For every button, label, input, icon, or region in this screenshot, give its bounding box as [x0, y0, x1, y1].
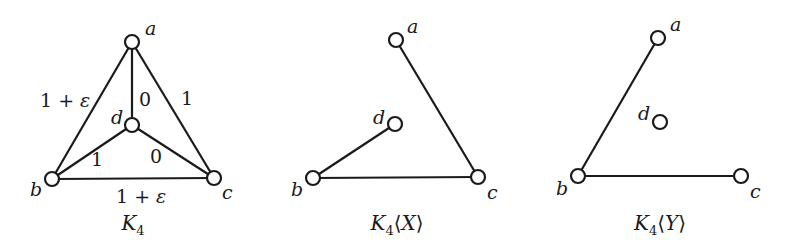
vertex-label-c: c: [750, 180, 761, 202]
edge-a-c: [132, 42, 214, 178]
vertex-b: [571, 169, 585, 183]
graph-caption: K4⟨Y⟩: [633, 211, 686, 238]
vertex-b: [306, 171, 320, 185]
vertex-c: [207, 171, 221, 185]
vertex-label-b: b: [291, 178, 303, 200]
vertex-label-a: a: [670, 13, 681, 35]
vertex-c: [734, 169, 748, 183]
edge-d-c: [132, 125, 214, 178]
vertex-label-d: d: [373, 106, 385, 128]
vertex-label-b: b: [30, 178, 42, 200]
vertex-label-c: c: [222, 181, 233, 203]
edge-weight-d-c: 0: [150, 145, 162, 167]
edge-weight-a-b: 1 + ε: [40, 89, 90, 111]
edge-b-d: [313, 124, 395, 178]
vertex-label-a: a: [407, 15, 418, 37]
vertex-d: [388, 117, 402, 131]
edge-weight-b-c: 1 + ε: [116, 185, 166, 207]
vertex-d: [125, 118, 139, 132]
graph-k4: 1 + ε101 + ε10abcdK4: [30, 17, 233, 238]
graph-caption: K4: [120, 211, 144, 238]
edge-b-c: [52, 178, 214, 179]
vertex-label-b: b: [556, 177, 568, 199]
edge-weight-b-d: 1: [91, 148, 103, 170]
edge-weight-a-c: 1: [181, 87, 193, 109]
edge-weight-a-d: 0: [139, 88, 151, 110]
vertex-label-d: d: [638, 102, 650, 124]
vertex-a: [651, 31, 665, 45]
vertex-label-c: c: [487, 181, 498, 203]
vertex-label-d: d: [111, 106, 123, 128]
edge-a-c: [396, 40, 478, 177]
vertex-a: [389, 33, 403, 47]
vertex-c: [471, 170, 485, 184]
figure-canvas: 1 + ε101 + ε10abcdK4 abcdK4⟨X⟩ abcdK4⟨Y⟩: [0, 0, 786, 251]
graph-k4-y: abcdK4⟨Y⟩: [556, 13, 761, 238]
vertex-d: [653, 115, 667, 129]
vertex-label-a: a: [145, 17, 156, 39]
edge-b-c: [313, 177, 478, 178]
graph-caption: K4⟨X⟩: [369, 211, 423, 238]
vertex-b: [45, 172, 59, 186]
vertex-a: [125, 35, 139, 49]
graph-k4-x: abcdK4⟨X⟩: [291, 15, 498, 238]
